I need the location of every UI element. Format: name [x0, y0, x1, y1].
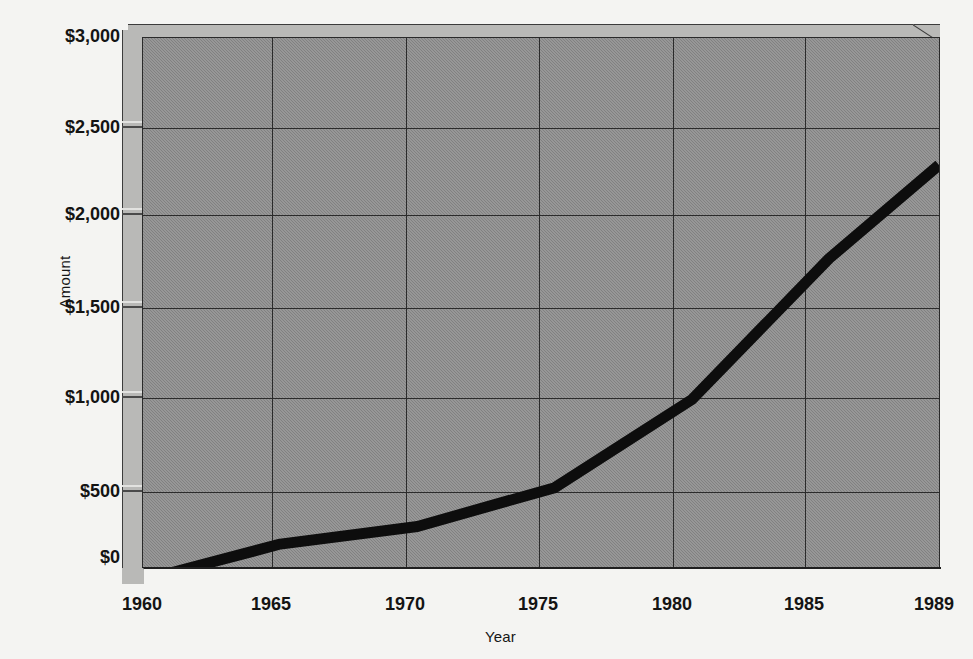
x-axis-title: Year — [0, 628, 973, 645]
x-axis-tick-labels: 1960 1965 1970 1975 1980 1985 1989 Year — [0, 0, 973, 659]
x-tick-label: 1985 — [749, 594, 859, 615]
x-axis-title-text: Year — [485, 628, 516, 645]
x-tick-label: 1980 — [617, 594, 727, 615]
x-tick-label: 1960 — [87, 594, 197, 615]
x-tick-label: 1965 — [216, 594, 326, 615]
x-tick-label: 1975 — [483, 594, 593, 615]
x-tick-label: 1989 — [879, 594, 973, 615]
line-chart: Amount $3,000 $2,500 $2,000 $1,500 $1,00… — [0, 0, 973, 659]
x-tick-label: 1970 — [350, 594, 460, 615]
